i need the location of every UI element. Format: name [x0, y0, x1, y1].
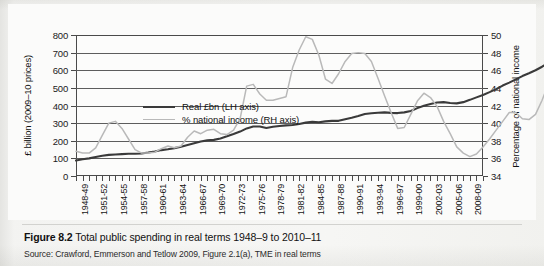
x-axis-tick — [280, 176, 281, 181]
right-axis-tick — [483, 35, 488, 36]
x-axis-tick — [424, 176, 425, 181]
left-axis-tick-label: 100 — [53, 153, 68, 164]
x-axis-tick-label: 2002-03 — [434, 184, 444, 215]
x-axis-tick — [155, 176, 156, 181]
x-axis-tick — [430, 176, 431, 181]
x-axis-tick — [358, 176, 359, 181]
right-axis-tick — [483, 158, 488, 159]
x-axis-tick-label: 1948-49 — [80, 184, 90, 215]
x-axis-tick-label: 1975-76 — [257, 184, 267, 215]
x-axis-tick — [437, 176, 438, 181]
x-axis-tick — [142, 176, 143, 181]
x-axis-tick — [201, 176, 202, 181]
right-axis-tick — [483, 88, 488, 89]
left-axis-tick-label: 500 — [53, 82, 68, 93]
x-axis-tick-label: 1966-67 — [198, 184, 208, 215]
chart-legend: Real £bn (LH axis) % national income (RH… — [143, 100, 299, 126]
x-axis-tick — [129, 176, 130, 181]
x-axis-tick — [168, 176, 169, 181]
figure-container: £ billion (2009–10 prices) Percentage of… — [0, 0, 544, 266]
x-axis-tick — [444, 176, 445, 181]
x-axis-tick — [260, 176, 261, 181]
x-axis-tick — [457, 176, 458, 181]
left-axis-tick-label: 700 — [53, 47, 68, 58]
x-axis-tick-label: 1972-73 — [237, 184, 247, 215]
x-axis-tick — [115, 176, 116, 181]
figure-caption-text: Total public spending in real terms 1948… — [73, 231, 322, 243]
x-axis-tick — [306, 176, 307, 181]
x-axis-tick — [293, 176, 294, 181]
x-axis-tick — [345, 176, 346, 181]
x-axis-tick-label: 1960-61 — [158, 184, 168, 215]
x-axis-tick — [378, 176, 379, 181]
right-axis-tick-label: 42 — [491, 100, 501, 111]
x-axis-tick-label: 1987-88 — [336, 184, 346, 215]
x-axis-tick-label: 2008-09 — [473, 184, 483, 215]
x-axis-tick — [194, 176, 195, 181]
x-axis-tick — [450, 176, 451, 181]
chart-card: £ billion (2009–10 prices) Percentage of… — [8, 4, 536, 220]
x-axis-tick — [76, 176, 77, 181]
x-axis-tick — [339, 176, 340, 181]
right-axis-title: Percentage of national income — [508, 26, 522, 186]
x-axis-tick-label: 1993-94 — [375, 184, 385, 215]
x-axis-tick — [483, 176, 484, 181]
legend-item-real: Real £bn (LH axis) — [143, 100, 299, 113]
x-axis-tick — [371, 176, 372, 181]
left-axis-tick-label: 0 — [63, 171, 68, 182]
legend-label-pct: % national income (RH axis) — [182, 114, 299, 125]
x-axis-tick — [266, 176, 267, 181]
figure-caption: Figure 8.2 Total public spending in real… — [24, 231, 321, 243]
caption-divider — [22, 224, 522, 225]
right-axis-tick — [483, 70, 488, 71]
x-axis-tick — [214, 176, 215, 181]
x-axis-tick-label: 1954-55 — [119, 184, 129, 215]
legend-item-pct: % national income (RH axis) — [143, 113, 299, 126]
x-axis-tick — [174, 176, 175, 181]
legend-label-real: Real £bn (LH axis) — [182, 101, 259, 112]
x-axis-tick — [319, 176, 320, 181]
right-axis-tick-label: 46 — [491, 65, 501, 76]
legend-swatch-pct-line-icon — [143, 119, 175, 120]
legend-swatch-real-line-icon — [143, 106, 175, 108]
left-axis-tick-label: 200 — [53, 135, 68, 146]
x-axis-tick — [102, 176, 103, 181]
x-axis-tick — [96, 176, 97, 181]
x-axis-tick — [220, 176, 221, 181]
right-axis-tick — [483, 53, 488, 54]
left-axis-tick-label: 800 — [53, 30, 68, 41]
x-axis-tick — [148, 176, 149, 181]
right-axis-tick — [483, 123, 488, 124]
right-axis-tick-label: 48 — [491, 47, 501, 58]
left-axis-tick-label: 300 — [53, 118, 68, 129]
x-axis-tick-label: 1978-79 — [276, 184, 286, 215]
pct-national-income-line — [76, 37, 544, 157]
x-axis-tick — [332, 176, 333, 181]
x-axis-tick — [207, 176, 208, 181]
left-axis-tick-label: 600 — [53, 65, 68, 76]
right-axis-title-text: Percentage of national income — [510, 45, 521, 168]
left-axis-tick-label: 400 — [53, 100, 68, 111]
x-axis-tick — [247, 176, 248, 181]
x-axis-tick — [312, 176, 313, 181]
x-axis-tick — [240, 176, 241, 181]
figure-number: Figure 8.2 — [24, 231, 73, 243]
left-axis-title: £ billion (2009–10 prices) — [20, 35, 34, 176]
x-axis-tick — [227, 176, 228, 181]
x-axis-tick — [188, 176, 189, 181]
x-axis-tick-label: 1969-70 — [217, 184, 227, 215]
x-axis-tick — [365, 176, 366, 181]
figure-source: Source: Crawford, Emmerson and Tetlow 20… — [24, 249, 321, 259]
x-axis-tick-label: 2005-06 — [454, 184, 464, 215]
x-axis-tick — [470, 176, 471, 181]
x-axis-tick-label: 1996-97 — [395, 184, 405, 215]
x-axis-tick — [476, 176, 477, 181]
x-axis-tick-label: 1957-58 — [139, 184, 149, 215]
x-axis-tick — [181, 176, 182, 181]
right-axis-tick — [483, 106, 488, 107]
x-axis-tick — [352, 176, 353, 181]
x-axis-tick — [273, 176, 274, 181]
right-axis-tick-label: 50 — [491, 30, 501, 41]
x-axis-tick — [83, 176, 84, 181]
x-axis-tick — [109, 176, 110, 181]
